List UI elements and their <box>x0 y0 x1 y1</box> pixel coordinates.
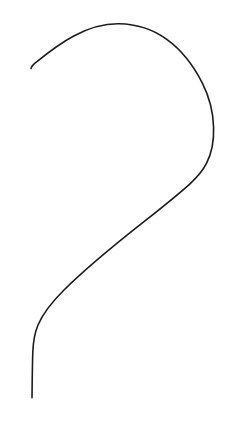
drawing-canvas <box>0 0 231 430</box>
hook-curve-svg <box>0 0 231 430</box>
